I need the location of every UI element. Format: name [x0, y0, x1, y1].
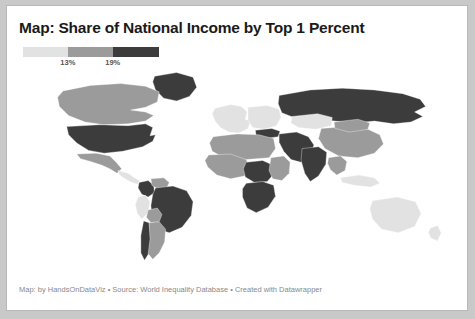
map-region[interactable]: Western Europe	[212, 105, 250, 133]
map-region[interactable]: Kazakhstan	[291, 114, 332, 130]
map-region[interactable]: Eastern Europe	[248, 106, 281, 130]
world-map-svg[interactable]: GreenlandCanadaUnited StatesMexicoCentra…	[7, 68, 467, 274]
legend-tick-0: 13%	[60, 58, 75, 67]
map-card: Map: Share of National Income by Top 1 P…	[6, 5, 468, 311]
map-region[interactable]: Australia	[370, 197, 421, 233]
page-title: Map: Share of National Income by Top 1 P…	[19, 19, 364, 37]
map-region[interactable]: Southern Africa	[242, 182, 275, 213]
map-region[interactable]: Greenland	[153, 73, 197, 101]
map-region[interactable]: Argentina	[148, 222, 165, 260]
legend-tick-1: 19%	[105, 58, 120, 67]
map-region[interactable]: Southeast Asia	[328, 156, 347, 175]
map-region[interactable]: New Zealand	[428, 225, 441, 241]
map-region[interactable]: Canada	[58, 84, 160, 125]
attribution-footer: Map: by HandsOnDataViz • Source: World I…	[19, 285, 322, 294]
legend-band-1	[68, 47, 113, 57]
land-layer: GreenlandCanadaUnited StatesMexicoCentra…	[58, 73, 442, 261]
map-region[interactable]: Mexico	[77, 153, 122, 173]
legend: 13%19%	[23, 47, 159, 57]
choropleth-map[interactable]: GreenlandCanadaUnited StatesMexicoCentra…	[7, 68, 467, 274]
legend-band-2	[113, 47, 159, 57]
legend-band-0	[23, 47, 68, 57]
map-region[interactable]: United States	[67, 124, 156, 153]
map-region[interactable]: Indonesia	[340, 175, 379, 187]
map-region[interactable]: India	[301, 147, 327, 182]
map-region[interactable]: East Africa	[269, 156, 290, 181]
map-region[interactable]: Central America	[118, 171, 140, 185]
map-region[interactable]: Central Africa	[243, 160, 273, 182]
